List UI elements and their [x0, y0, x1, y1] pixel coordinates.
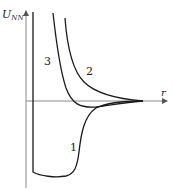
curve-1-label: 1 — [70, 141, 77, 154]
curve-2 — [65, 18, 143, 101]
curve-2-label: 2 — [86, 65, 93, 78]
x-axis-label: r — [161, 87, 167, 98]
y-axis-label-subscript: NN — [10, 14, 24, 22]
curve-3 — [53, 13, 143, 107]
potential-energy-diagram: UNN r 3 2 1 — [0, 0, 174, 190]
curve-1 — [33, 12, 143, 177]
y-axis-label: UNN — [2, 8, 24, 22]
curve-3-label: 3 — [44, 55, 51, 68]
